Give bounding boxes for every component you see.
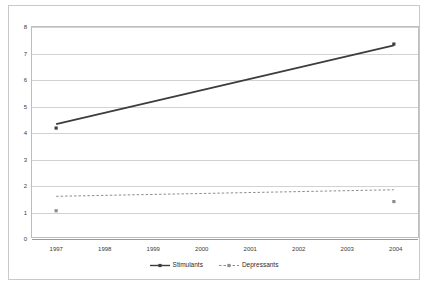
series-line bbox=[56, 190, 394, 197]
x-tick-label: 2000 bbox=[195, 246, 208, 252]
data-point-marker bbox=[55, 126, 58, 129]
y-tick-label: 0 bbox=[24, 236, 27, 242]
x-tick-label: 1997 bbox=[50, 246, 63, 252]
plot-area: 012345678 199719981999200020012002200320… bbox=[31, 26, 419, 238]
data-point-marker bbox=[392, 200, 395, 203]
y-tick-label: 6 bbox=[24, 77, 27, 83]
gridline-y-0 bbox=[32, 239, 418, 240]
x-tick-label: 2002 bbox=[292, 246, 305, 252]
series-depressants bbox=[55, 190, 396, 213]
x-tick-label: 2001 bbox=[244, 246, 257, 252]
y-tick-label: 1 bbox=[24, 210, 27, 216]
legend-swatch-depressants bbox=[219, 262, 239, 269]
series-layer bbox=[32, 27, 418, 237]
x-tick-label: 2004 bbox=[389, 246, 402, 252]
y-tick-label: 7 bbox=[24, 51, 27, 57]
y-tick-label: 3 bbox=[24, 157, 27, 163]
x-tick-label: 1998 bbox=[98, 246, 111, 252]
y-tick-label: 8 bbox=[24, 24, 27, 30]
y-tick-label: 4 bbox=[24, 130, 27, 136]
y-tick-label: 5 bbox=[24, 104, 27, 110]
data-point-marker bbox=[392, 42, 395, 45]
legend-entry-depressants[interactable]: Depressants bbox=[219, 262, 279, 269]
legend-swatch-stimulants bbox=[150, 262, 170, 269]
x-tick-label: 1999 bbox=[147, 246, 160, 252]
legend-entry-stimulants[interactable]: Stimulants bbox=[150, 262, 203, 269]
legend-label: Depressants bbox=[242, 262, 279, 269]
chart-frame: 012345678 199719981999200020012002200320… bbox=[8, 5, 420, 280]
x-tick-label: 2003 bbox=[341, 246, 354, 252]
y-tick-label: 2 bbox=[24, 183, 27, 189]
legend-label: Stimulants bbox=[173, 262, 203, 269]
series-stimulants bbox=[55, 42, 396, 129]
chart-legend: StimulantsDepressants bbox=[9, 262, 419, 269]
data-point-marker bbox=[55, 209, 58, 212]
series-line bbox=[56, 45, 394, 124]
